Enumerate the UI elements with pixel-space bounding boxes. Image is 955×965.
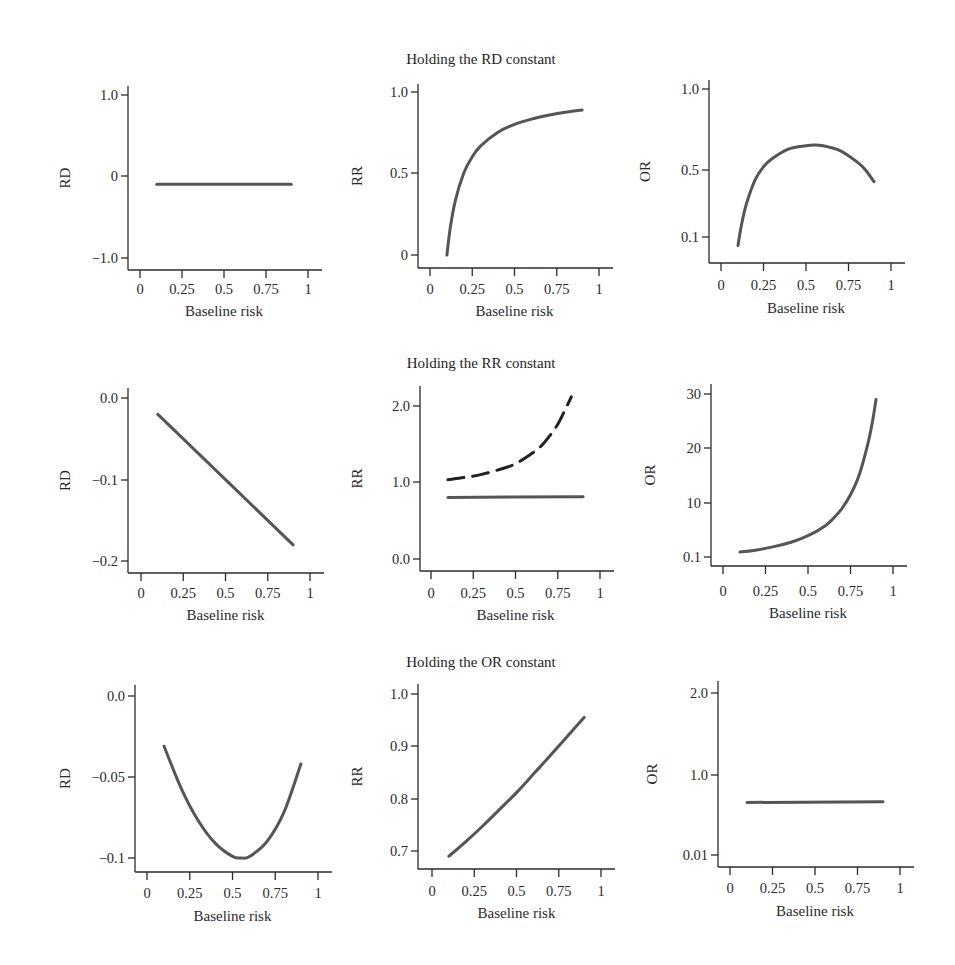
y-tick-label: 0.5	[390, 165, 408, 181]
x-tick-label: 0	[137, 585, 144, 601]
y-tick-label: 30	[687, 386, 702, 402]
y-axis-title: OR	[642, 465, 658, 486]
x-axis-title: Baseline risk	[776, 903, 854, 919]
x-tick-label: 1	[304, 281, 311, 297]
x-tick-label: 1	[596, 585, 603, 601]
data-curve	[747, 802, 883, 803]
y-tick-label: 0	[111, 168, 118, 184]
x-tick-label: 0	[143, 885, 150, 901]
y-tick-label: −0.1	[92, 472, 118, 488]
x-tick-label: 0.25	[462, 883, 487, 899]
y-axis-title: OR	[637, 161, 653, 182]
x-axis-title: Baseline risk	[187, 607, 265, 623]
x-tick-label: 1	[314, 885, 321, 901]
x-tick-label: 0.75	[845, 880, 870, 896]
x-axis-title: Baseline risk	[769, 605, 847, 621]
panels: −1.001.000.250.50.751Baseline riskRD00.5…	[57, 80, 914, 924]
x-tick-label: 0.5	[507, 883, 525, 899]
y-tick-label: 1.0	[681, 81, 699, 97]
x-tick-label: 1	[306, 585, 313, 601]
x-tick-label: 0.5	[506, 585, 524, 601]
row-title-or: Holding the OR constant	[406, 654, 556, 670]
data-curve	[158, 414, 293, 544]
x-tick-label: 0.5	[799, 583, 817, 599]
x-tick-label: 0.75	[545, 585, 570, 601]
x-tick-label: 1	[896, 880, 903, 896]
y-tick-label: 2.0	[690, 685, 708, 701]
data-curve	[449, 717, 584, 856]
x-axis-title: Baseline risk	[185, 303, 263, 319]
y-tick-label: 0.8	[390, 791, 408, 807]
x-tick-label: 0	[426, 281, 433, 297]
data-curve	[448, 497, 583, 498]
x-tick-label: 0	[136, 281, 143, 297]
y-tick-label: 0.0	[100, 390, 118, 406]
y-tick-label: 10	[687, 495, 702, 511]
y-tick-label: −0.1	[99, 850, 125, 866]
y-tick-label: 1.0	[390, 84, 408, 100]
y-tick-label: 0.9	[390, 738, 408, 754]
row-title-rd: Holding the RD constant	[406, 51, 556, 67]
y-tick-label: 1.0	[690, 767, 708, 783]
x-tick-label: 1	[887, 277, 894, 293]
y-tick-label: −1.0	[92, 250, 118, 266]
y-tick-label: 0.0	[107, 688, 125, 704]
y-tick-label: 0.7	[390, 843, 408, 859]
y-tick-label: −0.05	[91, 769, 125, 785]
x-tick-label: 0.25	[751, 277, 776, 293]
y-axis-title: OR	[644, 764, 660, 785]
x-tick-label: 0.25	[461, 585, 486, 601]
x-tick-label: 0	[726, 880, 733, 896]
y-axis-title: RD	[57, 167, 73, 188]
x-tick-label: 0.75	[263, 885, 288, 901]
x-tick-label: 0.25	[177, 885, 202, 901]
x-tick-label: 0.25	[460, 281, 485, 297]
x-tick-label: 1	[595, 281, 602, 297]
x-tick-label: 1	[889, 583, 896, 599]
x-tick-label: 0.5	[215, 281, 233, 297]
data-curve	[447, 110, 582, 255]
dashed-curve	[448, 397, 571, 480]
y-tick-label: 1.0	[390, 686, 408, 702]
y-tick-label: 0.1	[683, 549, 701, 565]
data-curve	[740, 399, 876, 552]
x-tick-label: 0	[428, 883, 435, 899]
y-tick-label: −0.2	[92, 553, 118, 569]
row-title-rr: Holding the RR constant	[407, 355, 557, 371]
data-curve	[738, 145, 874, 246]
panel-rd-row3: −0.1−0.050.000.250.50.751Baseline riskRD	[57, 685, 332, 924]
panel-rd-row2: −0.2−0.10.000.250.50.751Baseline riskRD	[57, 388, 324, 623]
figure-grid: Holding the RD constant Holding the RR c…	[0, 0, 955, 965]
panel-rr-row1: 00.51.000.250.50.751Baseline riskRR	[349, 84, 613, 319]
y-tick-label: 2.0	[392, 398, 410, 414]
x-tick-label: 0.25	[760, 880, 785, 896]
y-axis-title: RR	[349, 766, 365, 786]
y-tick-label: 0.01	[683, 847, 708, 863]
x-tick-label: 0.75	[836, 277, 861, 293]
x-tick-label: 0.75	[544, 281, 569, 297]
panel-rd-row1: −1.001.000.250.50.751Baseline riskRD	[57, 86, 322, 319]
panel-rr-row3: 0.70.80.91.000.250.50.751Baseline riskRR	[349, 684, 615, 921]
y-tick-label: 1.0	[100, 87, 118, 103]
y-axis-title: RD	[57, 470, 73, 491]
y-tick-label: 20	[687, 440, 702, 456]
y-tick-label: 0.5	[681, 162, 699, 178]
x-tick-label: 0.5	[216, 585, 234, 601]
panel-or-row1: 0.10.51.000.250.50.751Baseline riskOR	[637, 80, 905, 316]
x-axis-title: Baseline risk	[767, 300, 845, 316]
y-axis-title: RD	[57, 768, 73, 789]
y-tick-label: 0	[401, 247, 408, 263]
x-tick-label: 0.75	[255, 585, 280, 601]
y-tick-label: 1.0	[392, 474, 410, 490]
x-axis-title: Baseline risk	[476, 303, 554, 319]
x-axis-title: Baseline risk	[477, 607, 555, 623]
x-tick-label: 0.75	[253, 281, 278, 297]
panel-rr-row2: 0.01.02.000.250.50.751Baseline riskRR	[349, 386, 614, 623]
y-tick-label: 0.1	[681, 229, 699, 245]
x-tick-label: 0.25	[169, 281, 194, 297]
x-tick-label: 0.25	[753, 583, 778, 599]
x-tick-label: 0.75	[838, 583, 863, 599]
x-tick-label: 0.75	[546, 883, 571, 899]
x-tick-label: 0.5	[505, 281, 523, 297]
x-tick-label: 1	[597, 883, 604, 899]
